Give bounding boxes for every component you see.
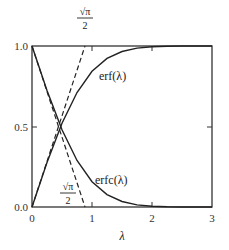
bottom-sqrtpi-over-2-annotation: √π 2	[60, 181, 76, 206]
x-tick-3: 3	[209, 212, 215, 224]
top-sqrtpi-over-2-annotation: √π 2	[77, 6, 93, 31]
x-tick-0: 0	[29, 212, 35, 224]
chart: 1.0 0.5 0.0 0 1 2 3 λ √π 2 √π 2 erf(λ) e…	[0, 0, 229, 250]
svg-text:2: 2	[66, 195, 71, 206]
x-axis-label: λ	[118, 229, 124, 243]
x-tick-1: 1	[89, 212, 95, 224]
svg-text:√π: √π	[80, 6, 91, 17]
y-tick-1.0: 1.0	[14, 40, 28, 52]
x-tick-2: 2	[149, 212, 155, 224]
svg-text:√π: √π	[63, 181, 74, 192]
y-tick-0.0: 0.0	[14, 201, 28, 213]
erfc-label: erfc(λ)	[95, 173, 127, 187]
y-tick-0.5: 0.5	[14, 121, 28, 133]
svg-text:2: 2	[83, 20, 88, 31]
erf-label: erf(λ)	[99, 69, 126, 83]
